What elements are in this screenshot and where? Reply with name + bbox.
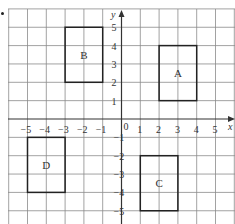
y-axis-label: y	[110, 9, 116, 20]
y-axis-arrow-icon	[119, 10, 125, 17]
grid-canvas: x y 0 −5−4−3−2−11234554321−1−2−3−4−5 ABC…	[0, 0, 235, 224]
x-tick-label: 1	[137, 124, 142, 135]
y-tick-label: −5	[114, 206, 125, 217]
x-tick-label: 4	[194, 124, 199, 135]
origin-label: 0	[124, 121, 129, 132]
x-tick-label: −3	[58, 124, 69, 135]
x-tick-label: −2	[77, 124, 88, 135]
x-axis-label: x	[227, 121, 233, 132]
y-tick-label: 1	[112, 96, 117, 107]
x-tick-label: 3	[175, 124, 180, 135]
y-tick-label: 2	[112, 77, 117, 88]
y-tick-label: −4	[114, 187, 125, 198]
rectangle-label-a: A	[174, 67, 182, 79]
x-tick-label: 2	[156, 124, 161, 135]
bullet-marker	[1, 12, 4, 15]
x-tick-label: 5	[213, 124, 218, 135]
coordinate-grid-figure: x y 0 −5−4−3−2−11234554321−1−2−3−4−5 ABC…	[0, 0, 235, 224]
x-tick-label: −5	[21, 124, 32, 135]
y-tick-label: −2	[114, 151, 125, 162]
rectangle-label-b: B	[80, 49, 87, 61]
y-tick-label: 5	[112, 22, 117, 33]
y-tick-label: −3	[114, 169, 125, 180]
y-tick-label: 4	[112, 41, 117, 52]
y-tick-label: 3	[112, 59, 117, 70]
x-tick-label: −1	[96, 124, 107, 135]
y-tick-label: −1	[114, 132, 125, 143]
x-tick-label: −4	[39, 124, 50, 135]
rectangle-label-c: C	[155, 177, 162, 189]
rectangle-label-d: D	[42, 159, 50, 171]
